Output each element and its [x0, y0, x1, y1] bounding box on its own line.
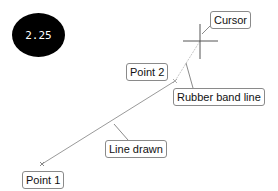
point1-marker-icon: [40, 162, 44, 166]
crosshair-cursor-icon: [183, 24, 218, 59]
point2-label: Point 2: [126, 63, 168, 81]
line-drawn-leader: [114, 124, 128, 140]
scale-badge-text: 2.25: [25, 29, 52, 42]
rubber-band-line: [175, 41, 200, 81]
point1-label: Point 1: [22, 171, 64, 189]
line-drawn-label: Line drawn: [105, 140, 167, 158]
point2-marker-icon: [173, 79, 177, 83]
rubber-band-label: Rubber band line: [173, 88, 265, 106]
scale-badge: 2.25: [12, 13, 65, 57]
cursor-label: Cursor: [210, 11, 251, 29]
rubber-band-leader: [186, 63, 193, 88]
